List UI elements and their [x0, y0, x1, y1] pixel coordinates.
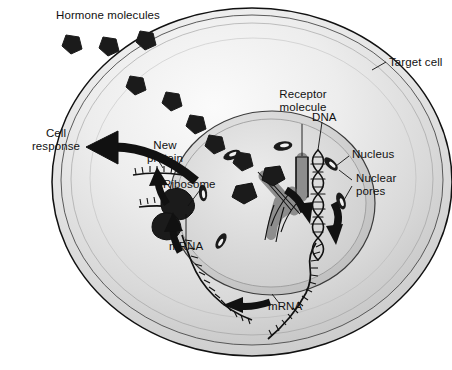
nucleus-group	[169, 111, 375, 295]
label-nuclear-pores: Nuclear pores	[356, 172, 396, 197]
label-new-protein: New protein	[139, 139, 191, 164]
hormone-outside-2	[99, 37, 119, 56]
label-mrna-nucleus: mRNA	[268, 300, 302, 313]
label-ribosome: Ribosome	[163, 178, 216, 191]
hormone-outside-1	[62, 35, 82, 54]
label-hormone-molecules: Hormone molecules	[56, 9, 160, 22]
label-target-cell: Target cell	[389, 56, 443, 69]
label-nucleus: Nucleus	[352, 148, 394, 161]
diagram-canvas: Hormone molecules Target cell Cell respo…	[0, 0, 452, 370]
label-dna: DNA	[312, 111, 337, 124]
label-mrna-cytoplasm: mRNA	[169, 240, 203, 253]
label-receptor-molecule: Receptor molecule	[264, 88, 342, 113]
label-cell-response: Cell response	[22, 127, 90, 152]
